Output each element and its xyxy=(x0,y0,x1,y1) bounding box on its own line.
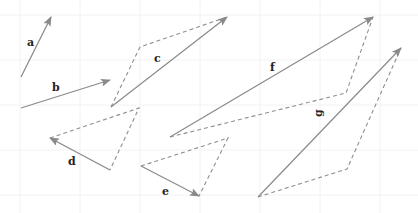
vector-arrow-b xyxy=(21,80,110,108)
vector-label-c: c xyxy=(154,52,161,65)
vector-arrow-e xyxy=(141,166,199,196)
vector-label-d: d xyxy=(68,155,76,168)
vector-arrows xyxy=(21,17,401,197)
background-grid xyxy=(0,0,418,213)
diagram-svg: abcdefg xyxy=(0,0,418,213)
vector-diagram: abcdefg xyxy=(0,0,418,213)
vector-label-g: g xyxy=(312,109,325,117)
vector-label-a: a xyxy=(27,36,34,49)
vector-label-f: f xyxy=(270,61,276,74)
vector-label-e: e xyxy=(162,185,169,198)
vector-arrow-a xyxy=(21,17,51,77)
dashed-path-d xyxy=(50,108,139,170)
dashed-triangles xyxy=(50,17,401,197)
dashed-path-e xyxy=(141,138,228,196)
vector-label-b: b xyxy=(52,81,60,94)
vector-arrow-c xyxy=(111,17,227,107)
